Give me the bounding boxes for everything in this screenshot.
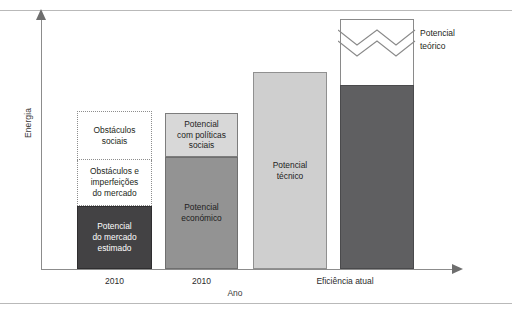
bar-1-segment-potencial-mercado-estimado: Potencial do mercado estimado: [77, 206, 152, 269]
bar-1-seg-top-line2: sociais: [94, 136, 136, 147]
bar-2-seg-top-line3: sociais: [177, 140, 226, 151]
bar-1-seg-top-line1: Obstáculos: [94, 125, 136, 136]
bar-2-segment-potencial-economico: Potencial económico: [165, 157, 238, 269]
bar-3-seg-line1: Potencial: [273, 160, 307, 171]
bar-3-seg-line2: técnico: [273, 171, 307, 182]
bar-3-segment-potencial-tecnico: Potencial técnico: [253, 72, 327, 269]
bar-2: Potencial com políticas sociais Potencia…: [165, 113, 238, 269]
bar-1-segment-obstaculos-imperfeicoes: Obstáculos e imperfeições do mercado: [77, 160, 152, 206]
bottom-divider-rule: [0, 303, 512, 304]
bar-1: Obstáculos sociais Obstáculos e imperfei…: [77, 111, 152, 269]
y-axis-arrow-icon: [36, 9, 46, 20]
bar-1-seg-mid-line3: do mercado: [90, 188, 139, 199]
top-divider-rule: [0, 10, 512, 11]
chart-figure: Energia Ano Obstáculos sociais Obstáculo…: [0, 0, 512, 317]
x-axis-line: [41, 269, 454, 270]
bar-2-seg-top-line1: Potencial: [177, 119, 226, 130]
x-tick-label-3: Eficiência atual: [290, 276, 400, 286]
bar-1-seg-mid-line2: imperfeições: [90, 177, 139, 188]
bar-1-seg-bot-line2: do mercado: [92, 232, 136, 243]
bar-2-seg-bot-line1: Potencial: [181, 202, 222, 213]
bar-1-seg-bot-line3: estimado: [92, 243, 136, 254]
bar-1-segment-obstaculos-sociais: Obstáculos sociais: [77, 111, 152, 160]
bar-2-segment-potencial-politicas-sociais: Potencial com políticas sociais: [165, 113, 238, 157]
x-axis-arrow-icon: [452, 264, 463, 274]
bar-1-seg-bot-line1: Potencial: [92, 221, 136, 232]
bar-3: Potencial técnico: [253, 72, 327, 269]
potencial-teorico-line1: Potencial: [420, 27, 506, 40]
y-axis-line: [41, 18, 42, 270]
axis-break-zigzag-icon: [338, 28, 416, 62]
bar-2-seg-top-line2: com políticas: [177, 130, 226, 141]
bar-4-segment-potencial-teorico-body: [340, 85, 414, 269]
x-tick-label-2: 2010: [165, 276, 238, 286]
y-axis-title: Energia: [23, 93, 33, 153]
x-tick-label-1: 2010: [77, 276, 152, 286]
potencial-teorico-annotation: Potencial teórico: [420, 27, 506, 53]
potencial-teorico-line2: teórico: [420, 40, 506, 53]
bar-1-seg-mid-line1: Obstáculos e: [90, 166, 139, 177]
bar-2-seg-bot-line2: económico: [181, 213, 222, 224]
x-axis-title: Ano: [205, 288, 265, 298]
